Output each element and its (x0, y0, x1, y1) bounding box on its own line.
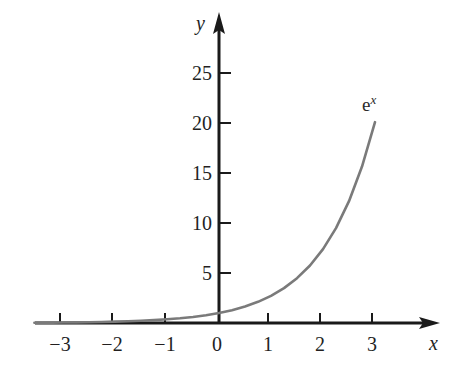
x-tick-label-2: 2 (300, 334, 340, 354)
x-axis-label: x (429, 333, 438, 353)
plot-area (0, 0, 462, 372)
y-tick-label-25: 25 (176, 63, 212, 83)
x-tick-label-0: 0 (197, 334, 237, 354)
x-tick-label-1: 1 (248, 334, 288, 354)
y-axis-ticks (219, 73, 231, 273)
y-axis-label: y (196, 13, 205, 33)
exponential-graph-figure: 25 20 15 10 5 −3 −2 −1 0 1 2 3 y x ex (0, 0, 462, 372)
x-tick-label-minus1: −1 (145, 334, 185, 354)
y-tick-label-15: 15 (176, 163, 212, 183)
curve-label-exp: ex (362, 95, 376, 114)
y-tick-label-20: 20 (176, 113, 212, 133)
y-tick-label-10: 10 (176, 213, 212, 233)
y-tick-label-5: 5 (176, 263, 212, 283)
x-tick-label-minus3: −3 (40, 334, 80, 354)
x-tick-label-3: 3 (352, 334, 392, 354)
x-tick-label-minus2: −2 (92, 334, 132, 354)
curve-label-exponent: x (370, 92, 376, 107)
